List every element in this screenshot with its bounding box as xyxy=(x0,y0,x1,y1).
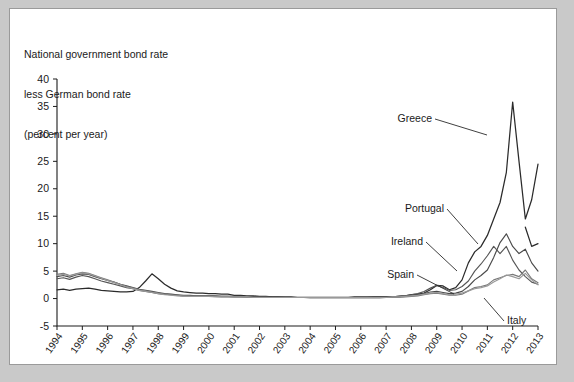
leader-line-portugal xyxy=(447,209,478,244)
series-line-greece xyxy=(57,102,538,297)
leader-line-ireland xyxy=(426,242,457,271)
x-tick-label: 2006 xyxy=(347,330,369,355)
x-tick-label: 2001 xyxy=(220,330,242,355)
series-lines xyxy=(57,102,538,298)
y-tick-label: 10 xyxy=(37,237,49,249)
series-line-italy xyxy=(57,273,538,298)
x-tick-label: 2011 xyxy=(474,330,496,354)
x-tick-label: 2013 xyxy=(524,330,546,355)
y-tick-label: 15 xyxy=(37,210,49,222)
x-axis-ticks: 1994199519961997199819992000200120022003… xyxy=(43,326,546,355)
x-tick-label: 2012 xyxy=(499,330,521,355)
series-label-ireland: Ireland xyxy=(391,235,423,247)
x-tick-label: 2008 xyxy=(397,330,419,355)
x-tick-label: 2002 xyxy=(245,330,267,355)
y-tick-label: 5 xyxy=(43,265,49,277)
x-tick-label: 2003 xyxy=(271,330,293,355)
series-line-spain xyxy=(57,270,538,298)
y-tick-label: 25 xyxy=(37,155,49,167)
x-tick-label: 1995 xyxy=(68,330,90,355)
figure-card: National government bond rate less Germa… xyxy=(9,8,557,365)
x-tick-label: 2010 xyxy=(448,330,470,355)
y-tick-label: 20 xyxy=(37,182,49,194)
screenshot-page: National government bond rate less Germa… xyxy=(0,0,574,382)
x-tick-label: 1998 xyxy=(144,330,166,355)
y-axis-ticks: -50510152025303540 xyxy=(37,73,57,332)
plot-area: -50510152025303540 199419951996199719981… xyxy=(37,73,546,356)
x-tick-label: 2005 xyxy=(321,330,343,355)
x-tick-label: 2004 xyxy=(296,330,318,355)
series-label-spain: Spain xyxy=(387,268,414,280)
line-chart: -50510152025303540 199419951996199719981… xyxy=(10,9,558,366)
series-line-greece-tail xyxy=(525,227,538,246)
series-label-greece: Greece xyxy=(398,112,433,124)
x-tick-label: 1997 xyxy=(119,330,141,355)
x-tick-label: 2000 xyxy=(195,330,217,355)
x-tick-label: 2007 xyxy=(372,330,394,355)
series-line-ireland xyxy=(57,246,538,297)
x-tick-label: 1994 xyxy=(43,330,65,355)
series-label-portugal: Portugal xyxy=(405,202,444,214)
series-label-italy: Italy xyxy=(507,314,527,326)
x-tick-label: 1996 xyxy=(93,330,115,355)
leader-line-greece xyxy=(435,119,487,135)
x-tick-label: 2009 xyxy=(423,330,445,355)
leader-line-italy xyxy=(484,298,504,321)
y-tick-label: 30 xyxy=(37,128,49,140)
y-tick-label: 40 xyxy=(37,73,49,85)
x-tick-label: 1999 xyxy=(169,330,191,355)
y-tick-label: -5 xyxy=(40,320,49,332)
y-tick-label: 0 xyxy=(43,292,49,304)
y-tick-label: 35 xyxy=(37,100,49,112)
